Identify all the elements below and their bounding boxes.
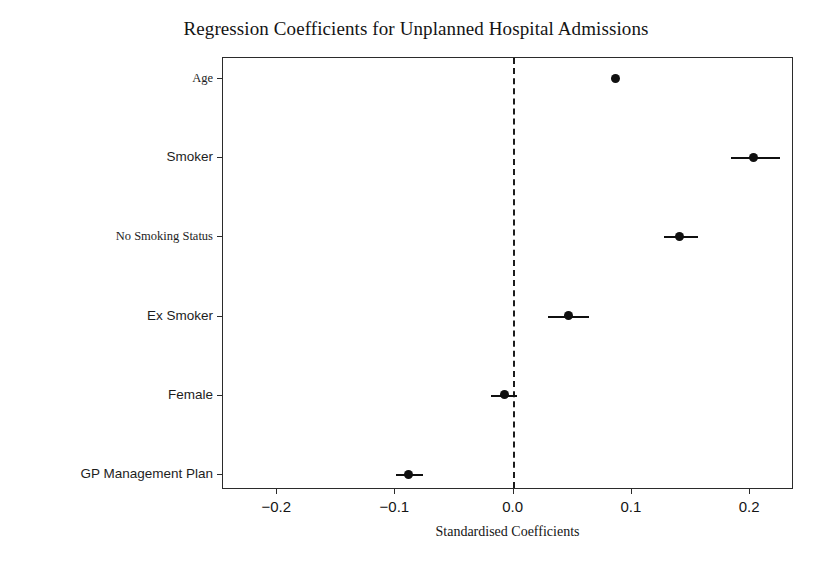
data-point-marker	[611, 74, 620, 83]
y-axis-tick	[217, 316, 223, 317]
x-axis-tick-label: 0.0	[502, 498, 523, 515]
data-point-marker	[749, 153, 758, 162]
y-axis-tick	[217, 395, 223, 396]
y-axis-label: No Smoking Status	[116, 230, 213, 243]
data-point-marker	[564, 311, 573, 320]
x-axis-tick	[513, 488, 514, 494]
zero-reference-line	[513, 58, 515, 488]
y-axis-tick	[217, 236, 223, 237]
y-axis-label: Ex Smoker	[147, 309, 213, 323]
x-axis-tick	[631, 488, 632, 494]
regression-coefficient-figure: Regression Coefficients for Unplanned Ho…	[0, 0, 832, 567]
x-axis-tick-label: −0.2	[261, 498, 291, 515]
x-axis-tick-label: 0.2	[739, 498, 760, 515]
data-point-marker	[500, 390, 509, 399]
y-axis-tick	[217, 78, 223, 79]
data-point-marker	[404, 470, 413, 479]
y-axis-label: Female	[168, 388, 213, 402]
chart-title: Regression Coefficients for Unplanned Ho…	[0, 18, 832, 40]
x-axis-title: Standardised Coefficients	[222, 524, 793, 540]
y-axis-label: Age	[192, 72, 213, 85]
y-axis-label: Smoker	[166, 150, 213, 164]
x-axis-tick	[394, 488, 395, 494]
y-axis-tick	[217, 157, 223, 158]
data-point-marker	[675, 232, 684, 241]
y-axis-tick	[217, 474, 223, 475]
x-axis-tick	[276, 488, 277, 494]
plot-area: AgeSmokerNo Smoking StatusEx SmokerFemal…	[222, 57, 793, 489]
x-axis-tick-label: −0.1	[380, 498, 410, 515]
x-axis-tick	[749, 488, 750, 494]
x-axis-tick-label: 0.1	[620, 498, 641, 515]
y-axis-label: GP Management Plan	[80, 467, 213, 481]
